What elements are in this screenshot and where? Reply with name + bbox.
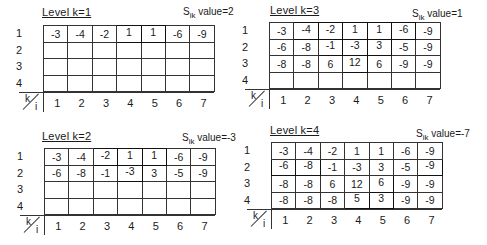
row-label: 2	[12, 42, 26, 59]
grid-cell: 6	[320, 176, 344, 193]
column-label: 1	[271, 94, 295, 106]
cell-value: -3	[277, 25, 286, 37]
cell-value: -8	[328, 194, 337, 206]
sik-value: value=2	[195, 6, 233, 17]
cell-value: -3	[352, 161, 361, 173]
cell-value: 1	[354, 145, 360, 157]
column-label: 5	[143, 97, 167, 109]
row-label: 3	[240, 175, 254, 192]
grid-cell: -5	[391, 39, 415, 56]
grid-cell	[118, 182, 142, 199]
column-label: 4	[118, 97, 142, 109]
grid-cell	[191, 198, 215, 215]
grid-cell: -3	[272, 143, 296, 160]
row-labels: 1234	[13, 148, 27, 214]
row-label: 1	[240, 142, 254, 159]
axis-i-label: i	[263, 218, 265, 229]
grid-row: -8-86126-9-9	[272, 176, 443, 193]
cell-value: -5	[174, 167, 183, 179]
cell-value: -9	[423, 41, 432, 53]
grid-cell: -6	[165, 26, 189, 43]
cell-value: -4	[75, 28, 84, 40]
grid-cell	[270, 72, 294, 89]
grid-cell	[294, 72, 318, 89]
grid-cell	[165, 42, 189, 59]
grid-row	[44, 42, 215, 59]
sik-symbol: S	[182, 132, 189, 143]
grid-cell: -8	[296, 159, 320, 176]
grid-cell	[68, 75, 92, 92]
panel-title: Level k=1	[42, 6, 91, 18]
grid-cell: -9	[191, 165, 215, 182]
cell-value: 1	[126, 26, 132, 38]
column-labels: 1234567	[271, 94, 442, 106]
grid-cell: -6	[393, 143, 417, 160]
row-labels: 1234	[240, 142, 254, 208]
cell-value: -6	[401, 145, 410, 157]
grid-row: -6-8-1-33-5-9	[45, 165, 216, 182]
grid-cell	[165, 59, 189, 76]
grid-cell	[191, 182, 215, 199]
row-label: 1	[13, 148, 27, 165]
sik-value-label: Sik value=-7	[416, 128, 470, 142]
grid-row	[45, 198, 216, 215]
grid-cell: -9	[393, 192, 417, 209]
cell-value: -2	[326, 23, 335, 35]
grid-cell	[367, 72, 391, 89]
sik-value-label: Sik value=2	[183, 6, 234, 20]
grid-cell: -4	[294, 23, 318, 40]
grid-cell: -8	[294, 56, 318, 73]
row-labels: 1234	[238, 22, 252, 88]
grid-cell: -3	[118, 165, 142, 182]
column-label: 1	[45, 97, 69, 109]
column-label: 7	[419, 214, 443, 226]
column-label: 2	[297, 214, 321, 226]
grid-cell	[92, 59, 116, 76]
axis-horizontal-line	[20, 215, 215, 216]
cell-value: -3	[279, 145, 288, 157]
grid-cell: -2	[320, 143, 344, 160]
cell-value: -9	[197, 28, 206, 40]
panel-title: Level k=4	[270, 124, 319, 136]
cell-value: 1	[127, 149, 133, 161]
axis-k-label: k	[251, 90, 256, 101]
grid-cell	[190, 42, 214, 59]
grid-cell: -8	[294, 39, 318, 56]
cell-value: -1	[328, 161, 337, 173]
cell-value: -8	[76, 167, 85, 179]
grid-cell: -9	[418, 159, 442, 176]
grid-cell	[92, 75, 116, 92]
grid-row: -6-8-1-33-5-9	[272, 159, 443, 176]
column-label: 5	[144, 220, 168, 232]
grid-cell: -9	[191, 149, 215, 166]
sik-symbol: S	[416, 128, 423, 139]
row-label: 3	[238, 55, 252, 72]
grid-cell	[92, 42, 116, 59]
cell-value: -3	[51, 28, 60, 40]
grid-cell	[44, 75, 68, 92]
cell-value: -5	[399, 41, 408, 53]
axis-i-label: i	[261, 98, 263, 109]
column-label: 3	[94, 97, 118, 109]
column-label: 1	[46, 220, 70, 232]
grid-cell: -8	[69, 165, 93, 182]
grid-row	[45, 182, 216, 199]
grid-cell: 6	[318, 56, 342, 73]
cell-value: 12	[349, 56, 361, 68]
cell-value: -4	[303, 145, 312, 157]
grid-cell	[318, 72, 342, 89]
row-labels: 1234	[12, 25, 26, 91]
sik-value: value=-7	[428, 128, 469, 139]
cell-value: -9	[425, 178, 434, 190]
grid-cell: 1	[345, 143, 369, 160]
cell-value: 6	[328, 58, 334, 70]
grid-cell	[93, 182, 117, 199]
grid-row: -3-4-211-6-9	[45, 149, 216, 166]
grid-cell: -9	[418, 192, 442, 209]
grid-cell	[391, 72, 415, 89]
cell-value: -8	[301, 41, 310, 53]
panel-title: Level k=2	[42, 130, 91, 142]
cell-value: 6	[376, 58, 382, 70]
cell-value: -6	[52, 167, 61, 179]
grid-cell: 6	[367, 56, 391, 73]
